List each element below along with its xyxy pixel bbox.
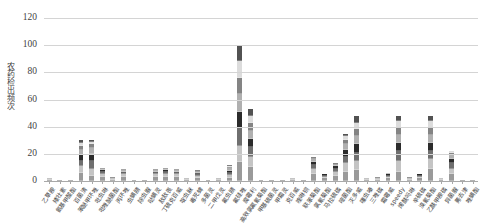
- x-tick: [377, 181, 378, 184]
- bar: [386, 173, 391, 181]
- bar-segment: [237, 78, 242, 94]
- x-tick: [187, 181, 188, 184]
- x-tick: [367, 181, 368, 184]
- bar-segment: [396, 135, 401, 143]
- bar-segment: [396, 172, 401, 182]
- bar-segment: [237, 162, 242, 181]
- bar-segment: [396, 143, 401, 151]
- bar-segment: [79, 173, 84, 181]
- x-tick: [303, 181, 304, 184]
- bar-segment: [354, 129, 359, 136]
- x-tick: [219, 181, 220, 184]
- bar-segment: [428, 169, 433, 181]
- x-tick: [81, 181, 82, 184]
- bar: [153, 169, 158, 181]
- bar: [417, 174, 422, 181]
- bar-segment: [248, 116, 253, 123]
- gridline-100: [44, 45, 478, 46]
- x-tick: [325, 181, 326, 184]
- x-tick: [92, 181, 93, 184]
- x-tick: [282, 181, 283, 184]
- bar-segment: [237, 61, 242, 77]
- y-tick-label: 100: [0, 40, 37, 50]
- bar-segment: [354, 144, 359, 152]
- bar-segment: [248, 131, 253, 139]
- bar-segment: [396, 128, 401, 135]
- bar: [100, 167, 105, 181]
- x-tick: [293, 181, 294, 184]
- bar-segment: [428, 128, 433, 135]
- bar-segment: [396, 161, 401, 172]
- gridline-80: [44, 72, 478, 73]
- x-tick: [240, 181, 241, 184]
- x-tick: [123, 181, 124, 184]
- bar-segment: [354, 116, 359, 123]
- x-tick: [176, 181, 177, 184]
- bar: [89, 140, 94, 181]
- bar-segment: [248, 139, 253, 147]
- x-tick: [356, 181, 357, 184]
- bar-segment: [428, 135, 433, 143]
- x-tick: [70, 181, 71, 184]
- bar: [79, 140, 84, 181]
- bar-segment: [248, 147, 253, 157]
- bar-segment: [354, 170, 359, 181]
- bar: [121, 169, 126, 181]
- x-tick: [229, 181, 230, 184]
- bar-segment: [237, 112, 242, 128]
- x-tick: [430, 181, 431, 184]
- x-tick: [208, 181, 209, 184]
- bar-segment: [311, 174, 316, 181]
- bar-segment: [79, 166, 84, 173]
- bar: [174, 169, 179, 181]
- x-tick: [388, 181, 389, 184]
- x-tick: [399, 181, 400, 184]
- gridline-20: [44, 154, 478, 155]
- plot-area: [44, 18, 478, 181]
- gridline-40: [44, 127, 478, 128]
- bar-segment: [343, 172, 348, 182]
- x-tick: [452, 181, 453, 184]
- x-tick: [250, 181, 251, 184]
- bar: [428, 116, 433, 181]
- x-tick: [441, 181, 442, 184]
- x-tick: [272, 181, 273, 184]
- x-tick: [145, 181, 146, 184]
- x-tick: [314, 181, 315, 184]
- bar: [195, 170, 200, 181]
- bar: [396, 116, 401, 181]
- bar-segment: [343, 163, 348, 171]
- bar: [311, 157, 316, 181]
- x-tick: [473, 181, 474, 184]
- bar-segment: [248, 157, 253, 168]
- bar-segment: [449, 174, 454, 181]
- gridline-60: [44, 100, 478, 101]
- bar-segment: [428, 143, 433, 151]
- x-tick: [261, 181, 262, 184]
- x-tick: [197, 181, 198, 184]
- y-tick-label: 20: [0, 149, 37, 159]
- y-tick-label: 40: [0, 122, 37, 132]
- x-tick: [49, 181, 50, 184]
- x-tick: [102, 181, 103, 184]
- y-axis-title: 农药检出频次: [2, 62, 14, 110]
- bar: [354, 116, 359, 181]
- bar-segment: [248, 167, 253, 181]
- x-tick: [420, 181, 421, 184]
- x-tick: [335, 181, 336, 184]
- bar-segment: [248, 109, 253, 116]
- bar-segment: [354, 136, 359, 144]
- gridline-120: [44, 18, 478, 19]
- bar: [449, 151, 454, 181]
- x-tick: [346, 181, 347, 184]
- bar-segment: [237, 94, 242, 112]
- x-tick: [134, 181, 135, 184]
- x-tick: [462, 181, 463, 184]
- bar: [343, 133, 348, 181]
- bar-segment: [237, 45, 242, 61]
- bar: [237, 45, 242, 181]
- x-tick: [155, 181, 156, 184]
- bar-segment: [343, 157, 348, 164]
- bar: [163, 167, 168, 181]
- bar-segment: [89, 154, 94, 161]
